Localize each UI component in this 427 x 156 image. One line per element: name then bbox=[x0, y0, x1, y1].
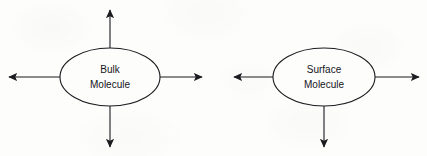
figure-canvas: Bulk Molecule Surface Molecule bbox=[0, 0, 427, 156]
bulk-molecule-diagram: Bulk Molecule bbox=[9, 10, 202, 147]
bulk-molecule-label-line1: Bulk bbox=[100, 64, 120, 75]
bulk-molecule-ellipse bbox=[60, 48, 160, 106]
surface-molecule-label-line1: Surface bbox=[307, 64, 342, 75]
surface-molecule-ellipse bbox=[273, 48, 375, 106]
surface-molecule-label-line2: Molecule bbox=[304, 79, 344, 90]
bulk-molecule-label-line2: Molecule bbox=[90, 79, 130, 90]
molecular-force-diagram: Bulk Molecule Surface Molecule bbox=[0, 0, 427, 156]
surface-molecule-diagram: Surface Molecule bbox=[234, 48, 419, 147]
